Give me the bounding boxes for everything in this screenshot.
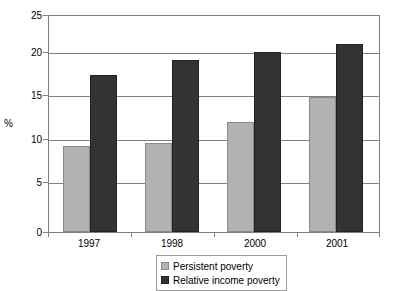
x-tick-mark-0 xyxy=(48,233,49,237)
y-tick-mark-10 xyxy=(43,139,48,140)
y-tick-mark-15 xyxy=(43,95,48,96)
legend-swatch-icon-relative-income-poverty xyxy=(161,276,169,284)
legend-swatch-icon-persistent-poverty xyxy=(161,262,169,270)
chart-legend: Persistent poverty Relative income pover… xyxy=(156,255,287,291)
y-tick-label-25: 25 xyxy=(2,11,42,21)
y-tick-label-0: 0 xyxy=(2,228,42,238)
bars-layer xyxy=(49,16,379,232)
bar-relative-income-poverty-2000 xyxy=(254,52,281,232)
x-tick-mark-3 xyxy=(297,233,298,237)
x-tick-mark-1 xyxy=(131,233,132,237)
bar-chart: % 25 20 15 10 5 0 xyxy=(0,0,400,291)
y-tick-mark-25 xyxy=(43,15,48,16)
y-tick-label-20: 20 xyxy=(2,48,42,58)
x-tick-label-2000: 2000 xyxy=(215,238,295,249)
y-tick-label-10: 10 xyxy=(2,135,42,145)
bar-relative-income-poverty-1997 xyxy=(90,75,117,232)
bar-persistent-poverty-2000 xyxy=(227,122,254,232)
x-tick-mark-4 xyxy=(379,233,380,237)
bar-persistent-poverty-2001 xyxy=(309,97,336,232)
bar-relative-income-poverty-2001 xyxy=(336,44,363,232)
bar-group-1998 xyxy=(131,16,213,232)
x-tick-label-2001: 2001 xyxy=(297,238,377,249)
y-axis-title: % xyxy=(4,118,13,129)
x-tick-label-1998: 1998 xyxy=(132,238,212,249)
legend-label-relative-income-poverty: Relative income poverty xyxy=(173,275,280,286)
bar-group-2000 xyxy=(213,16,295,232)
y-tick-label-5: 5 xyxy=(2,178,42,188)
legend-label-persistent-poverty: Persistent poverty xyxy=(173,261,253,272)
bar-group-1997 xyxy=(49,16,131,232)
bar-relative-income-poverty-1998 xyxy=(172,60,199,232)
legend-item-relative-income-poverty: Relative income poverty xyxy=(161,273,280,287)
y-tick-label-15: 15 xyxy=(2,91,42,101)
bar-persistent-poverty-1997 xyxy=(63,146,90,232)
x-tick-mark-2 xyxy=(214,233,215,237)
y-tick-mark-20 xyxy=(43,52,48,53)
legend-item-persistent-poverty: Persistent poverty xyxy=(161,259,280,273)
x-axis-labels: 1997 1998 2000 2001 xyxy=(48,238,380,252)
x-axis xyxy=(48,233,380,237)
x-tick-label-1997: 1997 xyxy=(49,238,129,249)
bar-persistent-poverty-1998 xyxy=(145,143,172,232)
y-tick-mark-5 xyxy=(43,182,48,183)
bar-group-2001 xyxy=(295,16,377,232)
